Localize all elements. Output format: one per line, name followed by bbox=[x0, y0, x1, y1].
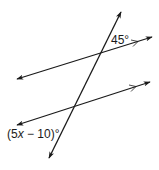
angle-expression-suffix: − 10)° bbox=[24, 127, 60, 141]
angle-label-top: 45° bbox=[111, 34, 129, 46]
geometry-diagram: 45° (5x − 10)° bbox=[0, 0, 159, 170]
parallel-line-top bbox=[17, 37, 152, 79]
angle-expression-prefix: (5 bbox=[7, 127, 18, 141]
diagram-canvas bbox=[0, 0, 159, 170]
angle-label-bottom: (5x − 10)° bbox=[7, 128, 60, 140]
